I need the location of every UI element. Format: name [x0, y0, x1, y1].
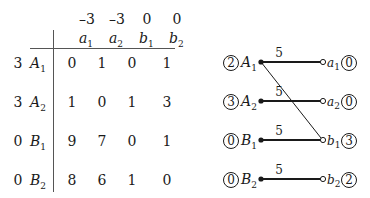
- right-node-price-a2: 0: [339, 94, 359, 110]
- left-node-price-A1: 2: [221, 55, 241, 71]
- right-node-label-a1: a1: [327, 55, 340, 75]
- left-node-label-B1: B1: [241, 132, 257, 154]
- left-node-price-A2: 3: [221, 94, 241, 110]
- edge-label: 5: [269, 162, 289, 178]
- left-node-label-A2: A2: [241, 93, 257, 115]
- left-node-price-B1: 0: [221, 133, 241, 149]
- right-node-label-a2: a2: [327, 94, 340, 114]
- right-node-price-a1: 0: [339, 55, 359, 71]
- edge-label: 5: [269, 84, 289, 100]
- right-node-price-b2: 2: [339, 172, 359, 188]
- left-node-label-A1: A1: [241, 54, 257, 76]
- right-node-price-b1: 3: [339, 133, 359, 149]
- left-node-price-B2: 0: [221, 172, 241, 188]
- edge-label: 5: [269, 123, 289, 139]
- left-node-label-B2: B2: [241, 171, 257, 193]
- bipartite-graph-edges: [0, 0, 370, 198]
- edge-label: 5: [269, 45, 289, 61]
